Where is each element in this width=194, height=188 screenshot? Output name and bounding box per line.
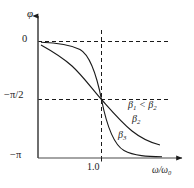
y-tick-label-half-pi: −π/2 [4,90,23,101]
inequality-beta2-subscript: 2 [153,104,156,111]
inequality-operator: < β [136,99,153,110]
x-axis-title: ω/ω0 [152,166,171,176]
phase-response-figure: φ 0 −π/2 −π 1.0 ω/ω0 β1 < β2 β2 β3 [0,0,194,188]
annotation-beta-inequality: β1 < β2 [128,100,157,110]
curve-label-beta2: β2 [132,114,140,124]
curve-label-beta3: β3 [118,130,126,140]
plot-canvas [0,0,194,188]
curve-label-beta2-subscript: 2 [137,118,140,125]
x-axis-title-subscript: 0 [168,169,171,176]
inequality-beta1-subscript: 1 [133,104,136,111]
y-axis-title: φ [27,8,33,19]
x-tick-label-one: 1.0 [87,162,100,172]
y-tick-label-zero: 0 [22,34,27,45]
curve-label-beta3-subscript: 3 [123,134,126,141]
x-axis-title-main: ω/ω [152,165,168,175]
y-tick-label-pi: −π [10,150,21,161]
